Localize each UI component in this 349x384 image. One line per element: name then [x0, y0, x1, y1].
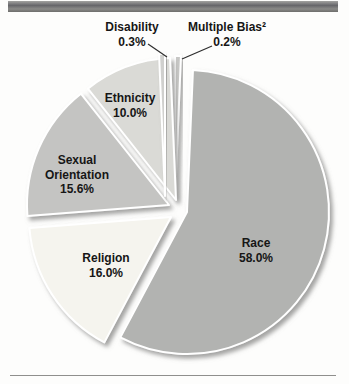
slice-label-sexual-orientation-value: 15.6%: [27, 182, 127, 197]
slice-label-ethnicity-name: Ethnicity: [80, 91, 180, 106]
slice-label-religion-value: 16.0%: [56, 266, 156, 281]
slice-label-race: Race 58.0%: [206, 236, 306, 265]
slice-label-sexual-orientation-name1: Sexual: [27, 153, 127, 168]
callout-multiple-bias-name: Multiple Bias²: [165, 20, 289, 35]
slice-label-sexual-orientation: Sexual Orientation 15.6%: [27, 153, 127, 197]
callout-multiple-bias-value: 0.2%: [165, 35, 289, 50]
callout-multiple-bias: Multiple Bias² 0.2%: [165, 20, 289, 49]
slice-label-religion-name: Religion: [56, 251, 156, 266]
slice-label-ethnicity-value: 10.0%: [80, 106, 180, 121]
slice-label-religion: Religion 16.0%: [56, 251, 156, 280]
slice-label-sexual-orientation-name2: Orientation: [27, 168, 127, 183]
slice-label-race-value: 58.0%: [206, 251, 306, 266]
slice-label-race-name: Race: [206, 236, 306, 251]
bottom-rule: [10, 375, 336, 376]
slice-label-ethnicity: Ethnicity 10.0%: [80, 91, 180, 120]
